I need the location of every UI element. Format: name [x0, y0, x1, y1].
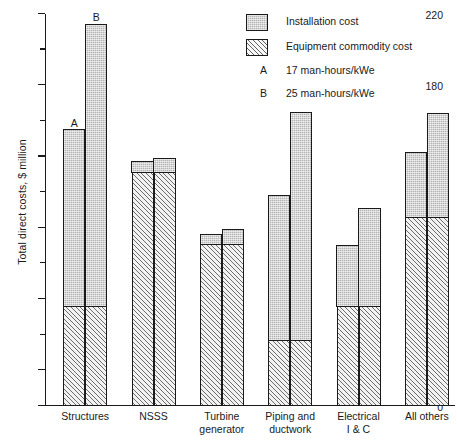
equipment-commodity-cost-swatch-icon [246, 39, 268, 56]
annotation-b: B 25 man-hours/kWe [246, 85, 456, 108]
bar[interactable] [222, 231, 244, 406]
bar-letter-b: B [86, 11, 106, 23]
legend-label-equipment-commodity-cost: Equipment commodity cost [286, 40, 412, 52]
bar-segment-installation-cost[interactable] [268, 195, 291, 341]
bar-segment-installation-cost[interactable] [85, 24, 108, 307]
annotation-a-label: 17 man-hours/kWe [286, 64, 375, 76]
y-tick-major [38, 227, 45, 228]
annotation-a: A 17 man-hours/kWe [246, 62, 456, 85]
y-tick-minor [40, 48, 45, 49]
bar-segment-installation-cost[interactable] [222, 229, 245, 245]
bar[interactable] [359, 210, 381, 406]
legend-label-installation-cost: Installation cost [286, 15, 358, 27]
y-axis-line [45, 14, 46, 406]
bar[interactable] [427, 116, 449, 406]
bar-letter-a: A [64, 117, 84, 129]
bar-group [132, 14, 176, 406]
y-axis-title: Total direct costs, $ million [16, 102, 28, 302]
annotation-b-key: B [260, 87, 267, 99]
bar-segment-installation-cost[interactable] [336, 245, 359, 307]
bar[interactable] [290, 114, 312, 406]
legend-item-installation-cost: Installation cost [246, 12, 456, 37]
bar-segment-installation-cost[interactable] [427, 113, 450, 218]
y-tick-minor [40, 334, 45, 335]
bar-segment-installation-cost[interactable] [358, 208, 381, 307]
y-tick-major [38, 369, 45, 370]
installation-cost-swatch-icon [246, 14, 268, 31]
bar-segment-installation-cost[interactable] [153, 158, 176, 174]
legend: Installation cost Equipment commodity co… [246, 12, 456, 108]
bar[interactable] [85, 26, 107, 406]
bar[interactable] [132, 164, 154, 406]
bar-segment-installation-cost[interactable] [290, 112, 313, 341]
y-tick-major [38, 155, 45, 156]
bar[interactable] [154, 160, 176, 406]
bar-segment-installation-cost[interactable] [63, 129, 86, 307]
bar-segment-installation-cost[interactable] [200, 234, 223, 244]
legend-item-equipment-commodity-cost: Equipment commodity cost [246, 37, 456, 62]
bar[interactable] [63, 132, 85, 406]
bar[interactable] [268, 198, 290, 406]
y-tick-minor [40, 120, 45, 121]
annotation-a-key: A [260, 64, 267, 76]
y-tick-major [38, 405, 45, 406]
bar[interactable] [337, 247, 359, 406]
bar[interactable] [200, 237, 222, 406]
bar-segment-installation-cost[interactable] [131, 161, 154, 173]
bar-chart: Total direct costs, $ million 0206010014… [0, 0, 457, 443]
bar-group [200, 14, 244, 406]
y-tick-major [38, 298, 45, 299]
y-tick-major [38, 13, 45, 14]
x-axis-label: All others [372, 410, 457, 423]
bar-group: AB [63, 14, 107, 406]
y-tick-minor [40, 191, 45, 192]
annotation-b-label: 25 man-hours/kWe [286, 87, 375, 99]
y-tick-major [38, 84, 45, 85]
bar[interactable] [405, 155, 427, 406]
bar-segment-installation-cost[interactable] [405, 152, 428, 217]
y-tick-minor [40, 262, 45, 263]
